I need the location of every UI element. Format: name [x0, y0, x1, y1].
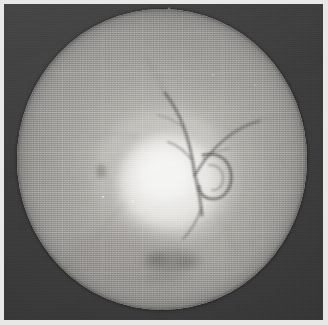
retinal-aperture: [17, 9, 307, 310]
left-rim-nick-artifact: [18, 222, 28, 231]
fundus-photograph-figure: Grayscale fundus photograph showing a ci…: [0, 0, 328, 325]
film-grain-texture: [17, 9, 307, 310]
photo-dark-field: [4, 4, 323, 320]
aperture-wrapper: [4, 4, 323, 320]
